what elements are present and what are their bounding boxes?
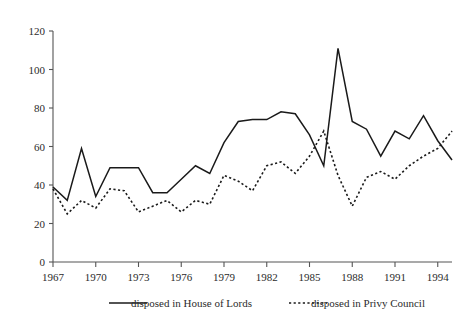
chart-legend: disposed in House of Lordsdisposed in Pr… [109, 297, 425, 309]
y-tick-label: 20 [34, 218, 46, 230]
legend-label: disposed in House of Lords [131, 297, 252, 309]
y-tick-label: 0 [40, 256, 46, 268]
x-tick-label: 1988 [341, 271, 364, 283]
x-tick-label: 1967 [42, 271, 65, 283]
x-tick-label: 1985 [299, 271, 322, 283]
series-layer [53, 48, 452, 214]
x-tick-label: 1970 [85, 271, 108, 283]
x-axis: 1967197019731976197919821985198819911994 [42, 262, 452, 283]
x-tick-label: 1991 [384, 271, 406, 283]
line-chart: 020406080100120 196719701973197619791982… [0, 0, 469, 327]
y-tick-label: 100 [29, 64, 46, 76]
y-tick-label: 40 [34, 179, 46, 191]
legend-label: disposed in Privy Council [311, 297, 425, 309]
y-axis: 020406080100120 [29, 25, 54, 268]
x-tick-label: 1976 [170, 271, 193, 283]
x-tick-label: 1994 [427, 271, 450, 283]
y-tick-label: 120 [29, 25, 46, 37]
x-tick-label: 1973 [128, 271, 151, 283]
x-tick-label: 1979 [213, 271, 236, 283]
y-tick-label: 60 [34, 141, 46, 153]
chart-container: 020406080100120 196719701973197619791982… [0, 0, 469, 327]
y-tick-label: 80 [34, 102, 46, 114]
x-tick-label: 1982 [256, 271, 278, 283]
series-line-dotted [53, 131, 452, 214]
